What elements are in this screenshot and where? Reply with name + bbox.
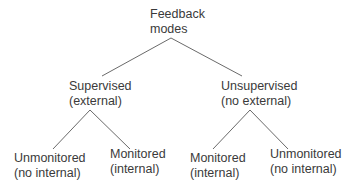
node-label-line1: Unmonitored (14, 151, 86, 166)
node-label-line1: Unsupervised (221, 79, 297, 94)
node-label-line1: Monitored (110, 147, 166, 162)
node-label-line2: (internal) (110, 162, 166, 177)
node-label-line2: (external) (69, 94, 132, 109)
node-label-line2: modes (150, 22, 205, 37)
node-unsupervised: Unsupervised (no external) (221, 79, 297, 109)
node-label-line2: (no internal) (270, 162, 342, 177)
node-label-line1: Monitored (190, 151, 246, 166)
node-label-line1: Feedback (150, 7, 205, 22)
node-feedback-modes: Feedback modes (150, 7, 205, 37)
edge-root-unsupervised (171, 38, 242, 76)
node-monitored-right: Monitored (internal) (190, 151, 246, 181)
edge-root-supervised (102, 38, 171, 76)
node-label-line1: Unmonitored (270, 147, 342, 162)
node-label-line2: (internal) (190, 166, 246, 181)
node-monitored-left: Monitored (internal) (110, 147, 166, 177)
edge-unsupervised-unmonitored (250, 110, 288, 149)
node-label-line2: (no internal) (14, 166, 86, 181)
edge-unsupervised-monitored (213, 110, 250, 149)
edge-supervised-monitored (90, 110, 130, 149)
edge-supervised-unmonitored (53, 110, 90, 149)
node-label-line1: Supervised (69, 79, 132, 94)
node-unmonitored-left: Unmonitored (no internal) (14, 151, 86, 181)
node-supervised: Supervised (external) (69, 79, 132, 109)
node-label-line2: (no external) (221, 94, 297, 109)
node-unmonitored-right: Unmonitored (no internal) (270, 147, 342, 177)
